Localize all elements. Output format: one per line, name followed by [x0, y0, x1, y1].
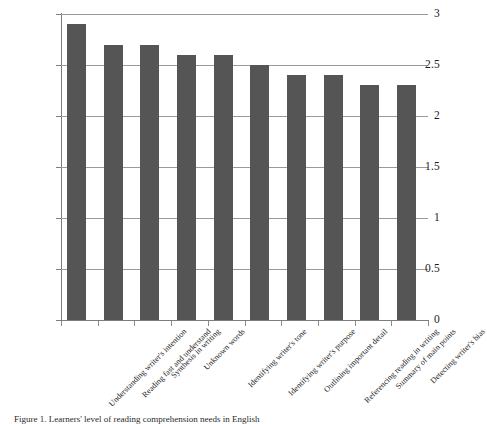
x-tick-mark	[428, 321, 429, 326]
bar	[67, 24, 86, 320]
x-axis-category-label: Unknown words	[202, 327, 247, 372]
x-tick-mark	[61, 321, 62, 326]
x-axis-category-label: Outlining important detail	[322, 327, 389, 394]
figure-caption: Figure 1. Learners' level of reading com…	[14, 414, 434, 424]
x-tick-mark	[208, 321, 209, 326]
gridline	[61, 14, 428, 15]
bar	[104, 45, 123, 320]
x-tick-mark	[391, 321, 392, 326]
bar	[177, 55, 196, 320]
x-tick-mark	[281, 321, 282, 326]
bar	[140, 45, 159, 320]
bar	[397, 85, 416, 320]
y-tick-label: 2.5	[392, 59, 440, 71]
bar	[250, 65, 269, 320]
bar	[214, 55, 233, 320]
y-tick-mark	[56, 116, 61, 117]
bar	[287, 75, 306, 320]
x-axis-category-label: Detecting writer's bias	[428, 327, 486, 385]
x-axis-category-label: Identifying writer's tone	[246, 327, 308, 389]
x-axis-category-label: Synthesis in writing	[169, 327, 222, 380]
bar	[324, 75, 343, 320]
x-tick-mark	[171, 321, 172, 326]
x-axis-category-label: Understanding writer's intention	[107, 327, 188, 408]
x-axis-category-label: Summary of main points	[394, 327, 458, 391]
x-tick-mark	[98, 321, 99, 326]
y-tick-mark	[56, 218, 61, 219]
bar	[360, 85, 379, 320]
y-tick-label: 3	[392, 8, 440, 20]
y-tick-mark	[56, 167, 61, 168]
y-tick-mark	[56, 14, 61, 15]
y-tick-mark	[56, 269, 61, 270]
x-axis-category-label: Referencing reading in writing	[363, 327, 441, 405]
x-axis-category-label: Reading fast and understand	[140, 327, 212, 399]
x-tick-mark	[318, 321, 319, 326]
x-axis-category-label: Identifying writer's purpose	[286, 327, 357, 398]
x-tick-mark	[245, 321, 246, 326]
y-tick-mark	[56, 65, 61, 66]
x-tick-mark	[355, 321, 356, 326]
x-tick-mark	[134, 321, 135, 326]
